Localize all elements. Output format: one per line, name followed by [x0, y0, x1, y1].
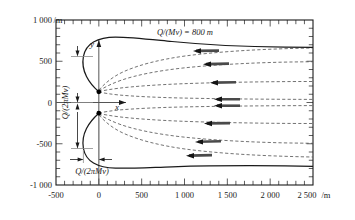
- x-tick-label-1000: 1 000: [175, 190, 194, 200]
- x-tick-label-1500: 1 500: [218, 190, 237, 200]
- source-point-upper: [96, 89, 101, 94]
- x-tick-label-500: 500: [135, 190, 148, 200]
- y-axis-unit-label: /m: [54, 15, 63, 25]
- plot-canvas: x y: [0, 0, 355, 220]
- y-tick-label-1000: 1 000: [33, 15, 52, 25]
- x-tick-label-minus500: -500: [48, 190, 64, 200]
- vertical-dimension-label: Q/(2πMv): [60, 86, 70, 120]
- x-tick-label-2000: 2 000: [261, 190, 280, 200]
- flow-parameter-label: Q/(Mv) = 800 m: [157, 27, 213, 37]
- streamline-figure: x y: [0, 0, 355, 220]
- y-tick-label-minus1000: -1 000: [30, 180, 52, 190]
- y-tick-label-minus500: -500: [36, 139, 52, 149]
- x-axis-unit-label: /m: [322, 190, 331, 200]
- horizontal-dimension-label: Q/(2πMv): [75, 166, 109, 176]
- x-tick-label-2500: 2 500: [297, 190, 316, 200]
- source-point-lower: [96, 111, 101, 116]
- x-tick-label-0: 0: [97, 190, 101, 200]
- y-tick-label-0: 0: [48, 98, 52, 108]
- y-tick-label-500: 500: [39, 56, 52, 66]
